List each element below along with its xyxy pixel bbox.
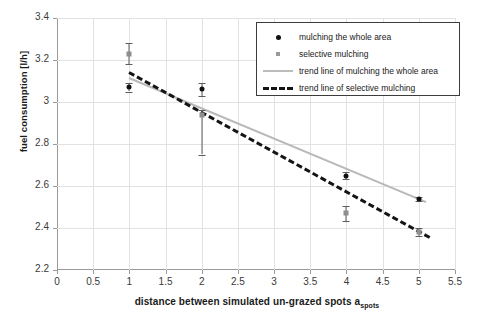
legend-marker-line-icon — [257, 70, 299, 72]
x-tick-label: 1 — [114, 276, 144, 287]
y-tick-mark — [53, 144, 57, 145]
data-point — [344, 173, 349, 178]
y-tick-label: 2.2 — [15, 263, 49, 274]
x-tick-mark — [346, 270, 347, 274]
x-axis-line — [57, 269, 455, 270]
legend-label: trend line of selective mulching — [299, 83, 415, 93]
y-tick-mark — [53, 186, 57, 187]
legend-item: trend line of mulching the whole area — [257, 62, 459, 80]
data-point — [127, 51, 132, 56]
x-tick-label: 2.5 — [223, 276, 253, 287]
chart-legend: mulching the whole areaselective mulchin… — [256, 22, 460, 96]
error-bar-cap — [415, 236, 422, 237]
gridline-horizontal — [57, 18, 455, 19]
x-tick-mark — [57, 270, 58, 274]
legend-key-glyph — [276, 35, 281, 40]
x-tick-mark — [93, 270, 94, 274]
y-tick-mark — [53, 18, 57, 19]
x-tick-mark — [310, 270, 311, 274]
y-tick-mark — [53, 270, 57, 271]
x-tick-mark — [383, 270, 384, 274]
gridline-horizontal — [57, 228, 455, 229]
x-tick-label: 2 — [187, 276, 217, 287]
gridline-horizontal — [57, 186, 455, 187]
y-tick-mark — [53, 60, 57, 61]
x-tick-label: 4 — [331, 276, 361, 287]
x-tick-label: 0 — [42, 276, 72, 287]
x-tick-mark — [238, 270, 239, 274]
error-bar-cap — [343, 179, 350, 180]
x-tick-label: 5.5 — [440, 276, 470, 287]
data-point — [344, 211, 349, 216]
x-tick-label: 5 — [404, 276, 434, 287]
y-tick-mark — [53, 228, 57, 229]
error-bar-cap — [126, 92, 133, 93]
error-bar-cap — [198, 83, 205, 84]
legend-key-glyph — [276, 52, 280, 56]
legend-label: trend line of mulching the whole area — [299, 66, 438, 76]
legend-item: mulching the whole area — [257, 28, 459, 46]
y-tick-label: 3.4 — [15, 11, 49, 22]
legend-key-glyph — [263, 87, 293, 90]
error-bar-cap — [198, 96, 205, 97]
error-bar-cap — [126, 64, 133, 65]
error-bar-cap — [343, 221, 350, 222]
data-point — [416, 230, 421, 235]
data-point — [416, 196, 421, 201]
x-tick-mark — [202, 270, 203, 274]
legend-key-glyph — [263, 70, 293, 72]
legend-label: selective mulching — [299, 49, 368, 59]
x-tick-label: 4.5 — [368, 276, 398, 287]
x-tick-mark — [455, 270, 456, 274]
error-bar-cap — [198, 155, 205, 156]
x-tick-mark — [419, 270, 420, 274]
x-tick-label: 3 — [259, 276, 289, 287]
error-bar-cap — [126, 43, 133, 44]
chart-root: fuel consumption [l/h] distance between … — [0, 0, 480, 320]
y-tick-label: 2.4 — [15, 221, 49, 232]
legend-item: trend line of selective mulching — [257, 79, 459, 97]
x-tick-label: 3.5 — [295, 276, 325, 287]
gridline-horizontal — [57, 102, 455, 103]
x-tick-mark — [129, 270, 130, 274]
data-point — [199, 112, 204, 117]
y-tick-label: 2.6 — [15, 179, 49, 190]
legend-label: mulching the whole area — [299, 32, 391, 42]
x-tick-mark — [166, 270, 167, 274]
x-tick-label: 1.5 — [151, 276, 181, 287]
x-tick-mark — [274, 270, 275, 274]
y-tick-label: 2.8 — [15, 137, 49, 148]
y-tick-label: 3.2 — [15, 53, 49, 64]
x-axis-title-main: distance between simulated un-grazed spo… — [135, 296, 361, 307]
legend-marker-square-icon — [257, 52, 299, 56]
x-axis-title-subscript: spots — [360, 302, 379, 309]
legend-marker-dot-icon — [257, 35, 299, 40]
data-point — [199, 87, 204, 92]
y-tick-mark — [53, 102, 57, 103]
error-bar-cap — [343, 206, 350, 207]
x-tick-label: 0.5 — [78, 276, 108, 287]
legend-item: selective mulching — [257, 45, 459, 63]
x-axis-title: distance between simulated un-grazed spo… — [57, 296, 457, 309]
data-point — [127, 85, 132, 90]
y-tick-label: 3 — [15, 95, 49, 106]
legend-marker-dash-icon — [257, 87, 299, 90]
